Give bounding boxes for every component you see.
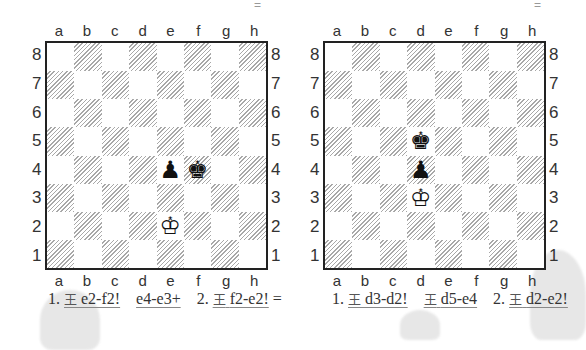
rank-labels-left: 87654321	[32, 41, 41, 270]
square-b7	[74, 71, 101, 99]
square-h1	[517, 240, 544, 268]
square-h3	[517, 184, 544, 212]
square-g2	[489, 212, 516, 240]
square-e5	[435, 127, 462, 155]
square-f5	[184, 127, 211, 155]
square-g8	[211, 43, 238, 71]
king-icon: 王	[509, 292, 522, 307]
square-b1	[352, 240, 379, 268]
square-a1	[325, 240, 352, 268]
square-e4	[435, 156, 462, 184]
square-f6	[184, 99, 211, 127]
square-g8	[489, 43, 516, 71]
square-d5: ♚	[407, 127, 434, 155]
move-notation: 1. 王 d3-d2! 王 d5-e4 2. 王 d2-e2!	[332, 289, 568, 308]
square-d7	[407, 71, 434, 99]
rank-labels-left: 87654321	[310, 41, 319, 270]
square-c7	[380, 71, 407, 99]
square-c2	[380, 212, 407, 240]
diagram-right: = abcdefgh 87654321 ♚♟♔ 87654321 abcdefg…	[278, 0, 571, 332]
square-a3	[47, 184, 74, 212]
square-g5	[211, 127, 238, 155]
square-f8	[184, 43, 211, 71]
move-white-2: 王 f2-e2!	[213, 290, 269, 307]
move-white-1: 王 d3-d2!	[348, 290, 408, 307]
square-e1	[435, 240, 462, 268]
chessboard: ♟♚♔	[45, 41, 268, 270]
square-h6	[517, 99, 544, 127]
square-g4	[489, 156, 516, 184]
square-a1	[47, 240, 74, 268]
square-a5	[325, 127, 352, 155]
square-d1	[407, 240, 434, 268]
square-b5	[74, 127, 101, 155]
chessboard: ♚♟♔	[323, 41, 546, 270]
square-g7	[489, 71, 516, 99]
square-c1	[102, 240, 129, 268]
square-f2	[462, 212, 489, 240]
file-labels-top: abcdefgh	[323, 22, 546, 39]
square-b3	[352, 184, 379, 212]
square-e1	[157, 240, 184, 268]
square-c6	[102, 99, 129, 127]
square-f6	[462, 99, 489, 127]
square-a6	[47, 99, 74, 127]
move-number: 1.	[332, 290, 344, 307]
square-d8	[129, 43, 156, 71]
square-c4	[380, 156, 407, 184]
square-c4	[102, 156, 129, 184]
square-d2	[129, 212, 156, 240]
square-h6	[239, 99, 266, 127]
square-h5	[239, 127, 266, 155]
white-king-icon: ♔	[159, 214, 181, 238]
square-g2	[211, 212, 238, 240]
king-icon: 王	[213, 292, 226, 307]
square-b3	[74, 184, 101, 212]
square-b7	[352, 71, 379, 99]
square-f8	[462, 43, 489, 71]
square-h4	[517, 156, 544, 184]
square-d8	[407, 43, 434, 71]
square-g4	[211, 156, 238, 184]
square-h2	[239, 212, 266, 240]
square-c8	[380, 43, 407, 71]
square-b8	[74, 43, 101, 71]
square-g6	[211, 99, 238, 127]
square-e3	[435, 184, 462, 212]
square-c2	[102, 212, 129, 240]
square-d6	[129, 99, 156, 127]
white-king-icon: ♔	[410, 186, 432, 210]
king-icon: 王	[64, 292, 77, 307]
square-d4	[129, 156, 156, 184]
square-c3	[102, 184, 129, 212]
square-e2	[435, 212, 462, 240]
square-e3	[157, 184, 184, 212]
square-d6	[407, 99, 434, 127]
square-h8	[517, 43, 544, 71]
black-king-icon: ♚	[410, 129, 432, 153]
square-e7	[157, 71, 184, 99]
square-f1	[184, 240, 211, 268]
square-b2	[352, 212, 379, 240]
square-a5	[47, 127, 74, 155]
square-e5	[157, 127, 184, 155]
move-notation: 1. 王 e2-f2! e4-e3+ 2. 王 f2-e2! =	[48, 289, 282, 308]
king-icon: 王	[348, 292, 361, 307]
square-h2	[517, 212, 544, 240]
square-e2: ♔	[157, 212, 184, 240]
square-e4: ♟	[157, 156, 184, 184]
square-b1	[74, 240, 101, 268]
square-f3	[462, 184, 489, 212]
file-labels-bottom: abcdefgh	[45, 272, 268, 289]
square-d1	[129, 240, 156, 268]
square-g7	[211, 71, 238, 99]
square-f5	[462, 127, 489, 155]
square-d3	[129, 184, 156, 212]
black-pawn-icon: ♟	[410, 158, 432, 182]
move-number: 2.	[493, 290, 505, 307]
square-e8	[435, 43, 462, 71]
square-h3	[239, 184, 266, 212]
square-b6	[352, 99, 379, 127]
square-h8	[239, 43, 266, 71]
square-g6	[489, 99, 516, 127]
